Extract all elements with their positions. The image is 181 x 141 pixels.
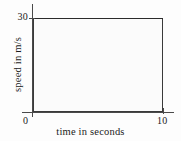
y-axis-line	[32, 4, 33, 117]
x-axis-tick-label-max: 10	[157, 116, 167, 126]
x-axis-title: time in seconds	[0, 126, 181, 137]
shaded-area-under-graph	[33, 18, 163, 112]
speed-line	[33, 18, 163, 19]
y-axis-tick-30	[29, 18, 35, 19]
speed-time-graph-figure: 30 0 10 speed in m/s time in seconds	[0, 0, 181, 141]
y-axis-title: speed in m/s	[12, 18, 23, 112]
x-axis-line	[22, 112, 174, 113]
x-axis-tick-10	[163, 108, 164, 114]
x-axis-tick-label-min: 0	[23, 116, 28, 126]
